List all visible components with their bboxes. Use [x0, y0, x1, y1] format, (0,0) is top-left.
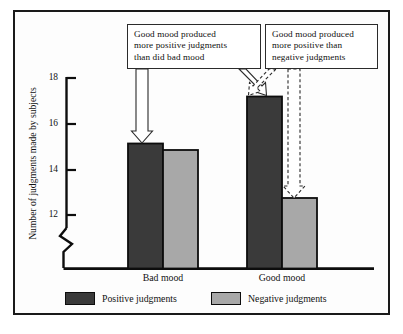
legend-swatch-positive-icon: [65, 292, 95, 305]
callout-2-line-3: negative judgments: [272, 52, 372, 63]
y-tick-label-16: 16: [38, 118, 58, 128]
y-axis-label: Number of judgments made by subjects: [27, 79, 38, 249]
legend-swatch-negative-icon: [211, 292, 241, 305]
y-tick-label-18: 18: [38, 72, 58, 82]
x-tick-label-good-mood: Good mood: [237, 272, 327, 283]
annotation-callout-positive-comparison: Good mood produced more positive judgmen…: [127, 24, 261, 69]
legend-item-negative: Negative judgments: [211, 292, 327, 305]
legend-label-negative: Negative judgments: [248, 293, 327, 304]
chart-figure: Good mood produced more positive judgmen…: [0, 0, 403, 334]
annotation-callout-mood-comparison: Good mood produced more positive than ne…: [265, 24, 378, 69]
callout-1-line-2: more positive judgments: [134, 40, 255, 51]
legend-label-positive: Positive judgments: [102, 293, 177, 304]
y-tick-label-12: 12: [38, 209, 58, 219]
callout-2-line-2: more positive than: [272, 40, 372, 51]
callout-1-line-1: Good mood produced: [134, 29, 255, 40]
x-tick-label-bad-mood: Bad mood: [118, 272, 208, 283]
legend-item-positive: Positive judgments: [65, 292, 177, 305]
y-tick-label-14: 14: [38, 164, 58, 174]
callout-2-line-1: Good mood produced: [272, 29, 372, 40]
callout-1-line-3: than did bad mood: [134, 52, 255, 63]
